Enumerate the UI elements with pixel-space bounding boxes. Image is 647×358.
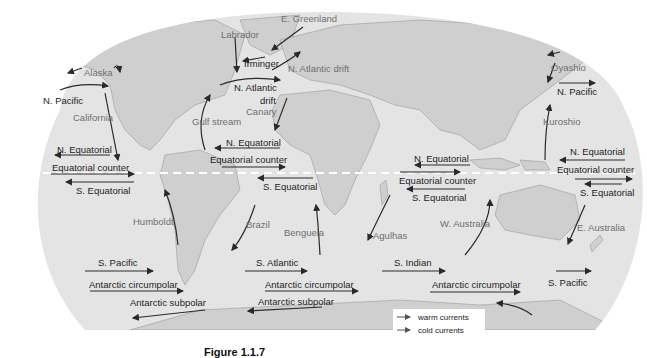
legend-warm: warm currents <box>393 312 485 322</box>
label-agulhas: Agulhas <box>373 230 407 241</box>
label-s-pacific-east: S. Pacific <box>548 277 588 288</box>
label-oyashio: Oyashio <box>551 62 586 73</box>
label-n-pacific-east: N. Pacific <box>557 86 597 97</box>
label-s-equatorial-atlantic: S. Equatorial <box>263 181 317 192</box>
label-equatorial-counter-pacific-w: Equatorial counter <box>52 162 129 173</box>
legend-warm-label: warm currents <box>418 313 469 322</box>
legend-cold-label: cold currents <box>418 326 464 335</box>
label-n-equatorial-indian: N. Equatorial <box>414 153 469 164</box>
label-s-atlantic: S. Atlantic <box>256 257 298 268</box>
label-benguela: Benguela <box>284 227 324 238</box>
label-e-greenland: E. Greenland <box>281 13 337 24</box>
label-s-equatorial-pacific-e: S. Equatorial <box>580 187 634 198</box>
label-labrador: Labrador <box>221 29 259 40</box>
label-n-atlantic: N. Atlantic <box>234 82 277 93</box>
figure-caption: Figure 1.1.7 <box>204 346 265 358</box>
label-n-equatorial-pacific-e: N. Equatorial <box>570 146 625 157</box>
label-s-equatorial-indian: S. Equatorial <box>412 192 466 203</box>
label-antarctic-circumpolar-atlantic: Antarctic circumpolar <box>265 279 354 290</box>
label-s-indian: S. Indian <box>394 257 432 268</box>
label-n-equatorial-atlantic: N. Equatorial <box>226 137 281 148</box>
legend-cold: cold currents <box>393 325 485 335</box>
label-antarctic-circumpolar-pacific: Antarctic circumpolar <box>89 279 178 290</box>
label-humboldt: Humboldt <box>133 216 174 227</box>
label-antarctic-circumpolar-indian: Antarctic circumpolar <box>432 279 521 290</box>
arrow-right-icon <box>397 314 415 320</box>
label-brazil: Brazil <box>246 219 270 230</box>
label-equatorial-counter-pacific-e: Equatorial counter <box>557 164 634 175</box>
label-s-pacific-west: S. Pacific <box>98 257 138 268</box>
label-s-equatorial-pacific-w: S. Equatorial <box>76 185 130 196</box>
label-drift: drift <box>260 95 276 106</box>
label-e-australia: E. Australia <box>577 222 625 233</box>
label-california: California <box>73 112 113 123</box>
label-n-atlantic-drift-north: N. Atlantic drift <box>288 63 349 74</box>
arrow-right-icon <box>397 327 415 333</box>
legend: warm currents cold currents <box>393 309 485 337</box>
label-irminger: Irminger <box>244 58 279 69</box>
label-w-australia: W. Australia <box>440 218 490 229</box>
label-alaska: Alaska <box>84 67 113 78</box>
label-antarctic-subpolar-atlantic: Antarctic subpolar <box>258 296 334 307</box>
label-n-pacific-west: N. Pacific <box>43 95 83 106</box>
label-equatorial-counter-atlantic: Equatorial counter <box>210 154 287 165</box>
label-n-equatorial-pacific-w: N. Equatorial <box>57 144 112 155</box>
label-gulf-stream: Gulf stream <box>192 116 241 127</box>
label-antarctic-subpolar-pacific: Antarctic subpolar <box>130 297 206 308</box>
label-equatorial-counter-indian: Equatorial counter <box>399 175 476 186</box>
label-kuroshio: Kuroshio <box>543 116 581 127</box>
label-canary: Canary <box>246 106 277 117</box>
